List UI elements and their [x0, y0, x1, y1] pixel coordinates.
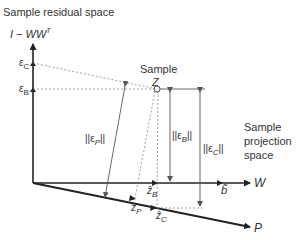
- zb-label: ẑB: [147, 186, 157, 199]
- projection-label-line1: Sample: [244, 120, 292, 134]
- eps-c-label: εC: [19, 58, 29, 71]
- projection-label-line3: space: [244, 148, 292, 162]
- norm-eps-p-label: ||εP||: [85, 134, 105, 147]
- norm-eps-p-arrow: [105, 86, 125, 197]
- norm-eps-b-label: ||εB||: [172, 131, 192, 144]
- projection-space-label: Sample projection space: [244, 120, 292, 162]
- p-axis-label: P: [254, 222, 262, 234]
- residual-axis-sup: T: [46, 27, 50, 34]
- zc-label: ẑC: [156, 211, 167, 224]
- zp-marker: [129, 195, 136, 201]
- eps-b-label: εB: [19, 84, 29, 97]
- norm-eps-b-end: ||: [187, 130, 192, 141]
- zp-sub: P: [136, 207, 141, 216]
- eps-c-sub: C: [23, 62, 29, 71]
- eps-c-dashed-line: [33, 63, 157, 89]
- projection-label-line2: projection: [244, 134, 292, 148]
- p-axis: [33, 183, 250, 227]
- zp-label: ẑP: [131, 203, 141, 216]
- norm-eps-c-end: ||: [218, 143, 223, 154]
- z-label: Z: [152, 77, 159, 88]
- norm-eps-c-text: ||ε: [203, 143, 213, 154]
- w-axis-label: W: [254, 177, 265, 189]
- b-label: b̃: [221, 185, 227, 196]
- eps-b-sub: B: [23, 88, 28, 97]
- norm-eps-p-text: ||ε: [85, 133, 95, 144]
- norm-eps-b-text: ||ε: [172, 130, 182, 141]
- sample-label: Sample: [140, 64, 177, 75]
- residual-axis-label: I − WWT: [10, 27, 51, 40]
- eps-b-marker: [30, 87, 36, 92]
- norm-eps-p-end: ||: [100, 133, 105, 144]
- title-residual-space: Sample residual space: [3, 7, 114, 18]
- zc-sub: C: [161, 215, 167, 224]
- norm-eps-c-label: ||εC||: [203, 144, 224, 157]
- residual-axis-text: I − WW: [10, 28, 46, 40]
- eps-c-marker: [30, 61, 36, 66]
- zb-sub: B: [152, 190, 157, 199]
